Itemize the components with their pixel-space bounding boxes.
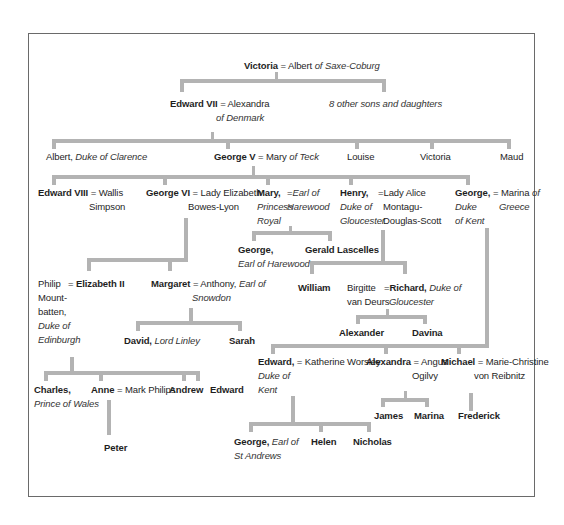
node-davina: Davina	[412, 326, 443, 340]
marriage-sign: =	[68, 278, 73, 289]
person-title: Duke of	[340, 200, 372, 214]
marriage-sign: =	[193, 278, 198, 289]
person-title: Duke of	[429, 282, 461, 293]
node-alexandra: Alexandra = Angus	[366, 355, 448, 369]
spouse-title-cont: Greece	[499, 200, 530, 214]
person-title-cont: Gloucester	[340, 214, 385, 228]
node-louise: Louise	[347, 150, 374, 164]
person-name: Edward VIII	[38, 187, 88, 198]
spouse-name: Wallis	[99, 187, 123, 198]
connector-line	[381, 398, 429, 402]
node-edward-viii: Edward VIII = Wallis	[38, 186, 123, 200]
mary-spouse: =Earl of	[287, 186, 319, 200]
connector-line	[291, 396, 295, 425]
person-title: Duke of	[38, 319, 70, 333]
connector-line	[356, 315, 427, 319]
person-title: Earl of	[272, 436, 299, 447]
node-william: William	[298, 281, 330, 295]
node-albert-clarence: Albert, Duke of Clarence	[46, 150, 147, 164]
connector-line	[238, 321, 242, 331]
node-maud: Maud	[500, 150, 523, 164]
connector-line	[249, 422, 371, 426]
connector-line	[180, 79, 184, 92]
person-title-cont: Royal	[257, 214, 281, 228]
node-michael: Michael = Marie-Christine	[441, 355, 549, 369]
marriage-sign: =	[117, 384, 122, 395]
connector-line	[182, 371, 186, 381]
connector-line	[52, 139, 56, 149]
person-name: George V	[214, 151, 255, 162]
spouse-name: Alexandra	[228, 98, 270, 109]
connector-line	[328, 231, 332, 241]
spouse-name: Mark Philips	[125, 384, 176, 395]
connector-line	[168, 258, 172, 271]
person-title-cont: of Kent	[455, 214, 484, 228]
spouse-name-cont: Simpson	[89, 200, 125, 214]
node-george-st-andrews: George, Earl of	[234, 435, 299, 449]
connector-line	[99, 371, 103, 381]
spouse-name-cont: Bowes-Lyon	[188, 200, 239, 214]
person-name: David,	[124, 335, 152, 346]
connector-line	[226, 139, 230, 149]
connector-line	[44, 371, 48, 381]
marriage-sign: =	[297, 356, 302, 367]
person-title: Duke	[455, 200, 477, 214]
node-george-earl-of-harewood: George,	[238, 243, 273, 257]
connector-line	[44, 371, 200, 375]
person-name: Edward VII	[170, 98, 218, 109]
connector-line	[466, 175, 470, 185]
person-name: Elizabeth II	[76, 278, 124, 289]
node-george-duke-of-kent: George,	[455, 186, 490, 200]
connector-line	[252, 231, 332, 235]
connector-line	[367, 422, 371, 432]
person-title: Duke of	[258, 369, 290, 383]
spouse-name-cont: Montagu-	[383, 200, 422, 214]
connector-line	[384, 344, 388, 354]
person-name: Alexandra	[366, 356, 411, 367]
node-richard-gloucester: =Richard, Duke of	[384, 281, 461, 295]
marriage-sign: =	[478, 356, 483, 367]
spouse-name-cont: Ogilvy	[412, 369, 438, 383]
node-marina: Marina	[414, 409, 444, 423]
marriage-sign: =	[220, 98, 225, 109]
connector-line	[507, 139, 511, 149]
philip-name-cont: batten,	[38, 305, 66, 319]
node-george-v: George V = Mary of Teck	[214, 150, 319, 164]
connector-line	[382, 79, 386, 92]
connector-line	[381, 230, 385, 265]
person-title-cont: Edinburgh	[38, 333, 80, 347]
person-name: Anne	[91, 384, 114, 395]
connector-line	[430, 139, 434, 149]
connector-line	[485, 228, 489, 348]
node-edward: Edward	[210, 383, 244, 397]
spouse-name: Marina	[501, 187, 529, 198]
node-andrew: Andrew	[169, 383, 203, 397]
person-name: Michael	[441, 356, 475, 367]
spouse-title: of	[532, 187, 540, 198]
connector-line	[423, 315, 427, 324]
person-title-cont: Gloucester	[389, 295, 434, 309]
spouse-title-cont: Snowdon	[192, 291, 231, 305]
spouse-title-cont: Harewood	[287, 200, 330, 214]
node-other-children: 8 other sons and daughters	[329, 97, 442, 111]
person-title-cont: Kent	[258, 383, 277, 397]
connector-line	[87, 258, 188, 262]
node-sarah: Sarah	[229, 334, 255, 348]
person-title: Prince of Wales	[34, 397, 99, 411]
spouse-name: Albert	[288, 60, 312, 71]
node-anne: Anne = Mark Philips	[91, 383, 175, 397]
node-edward-duke-of-kent: Edward, = Katherine Worsley	[258, 355, 381, 369]
connector-line	[252, 231, 256, 241]
connector-line	[249, 422, 253, 432]
node-james: James	[374, 409, 403, 423]
connector-line	[425, 398, 429, 407]
person-title: Lord Linley	[154, 335, 199, 346]
spouse-name: Lady Elizabeth	[201, 187, 262, 198]
person-name: Albert,	[46, 151, 73, 162]
connector-line	[196, 371, 200, 381]
spouse-name: Lady Alice	[383, 187, 425, 198]
spouse-title: Earl of	[292, 187, 319, 198]
marriage-sign: =	[193, 187, 198, 198]
spouse-title: of Teck	[289, 151, 319, 162]
connector-line	[52, 175, 470, 179]
